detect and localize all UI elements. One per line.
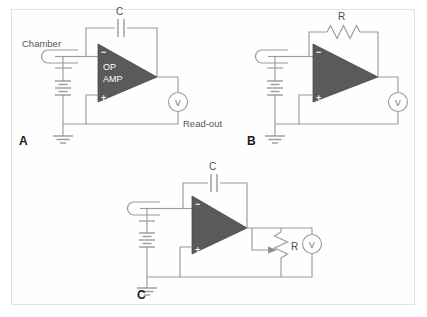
opamp-b: [313, 44, 378, 102]
battery-c: [139, 221, 155, 277]
potentiometer-c: [252, 228, 288, 277]
noninv-wire-b: [275, 95, 313, 124]
panel-a: − + OP AMP V C Chamber Read-out A: [19, 6, 222, 148]
circuit-diagram: − + OP AMP V C Chamber Read-out A: [0, 0, 427, 317]
ground-b: [265, 124, 285, 143]
opamp-a-minus: −: [101, 47, 106, 57]
capacitor-a-label: C: [116, 6, 123, 17]
noninv-wire-c: [147, 247, 192, 277]
chamber-symbol-c: [128, 202, 173, 221]
opamp-b-plus: +: [316, 93, 321, 103]
opamp-c-plus: +: [195, 245, 200, 255]
chamber-symbol-b: [256, 50, 293, 68]
battery-b: [267, 68, 283, 124]
capacitor-c-label: C: [209, 161, 216, 172]
chamber-symbol-a: [42, 50, 82, 68]
figure-root: − + OP AMP V C Chamber Read-out A: [0, 0, 427, 317]
opamp-a-plus: +: [101, 93, 106, 103]
panel-letter-a: A: [19, 134, 28, 148]
readout-a-label: Read-out: [183, 118, 222, 129]
potentiometer-c-label: R: [291, 241, 298, 252]
voltmeter-a-label: V: [175, 98, 181, 108]
noninv-wire-a: [63, 95, 98, 124]
battery-a: [55, 68, 71, 124]
panel-c: − + V C R C: [128, 161, 322, 302]
voltmeter-b-label: V: [395, 98, 401, 108]
opamp-a-label-line2: AMP: [103, 74, 123, 84]
opamp-a: [98, 44, 157, 102]
opamp-a-label-line1: OP: [103, 62, 116, 72]
panel-letter-b: B: [247, 134, 256, 148]
voltmeter-c-label: V: [309, 240, 315, 250]
opamp-b-minus: −: [316, 47, 321, 57]
panel-letter-c: C: [137, 288, 146, 302]
opamp-c-minus: −: [195, 199, 200, 209]
resistor-b-label: R: [338, 11, 345, 22]
ground-a: [53, 124, 73, 143]
chamber-a-label: Chamber: [22, 38, 61, 49]
panel-b: − + V R B: [247, 11, 408, 148]
